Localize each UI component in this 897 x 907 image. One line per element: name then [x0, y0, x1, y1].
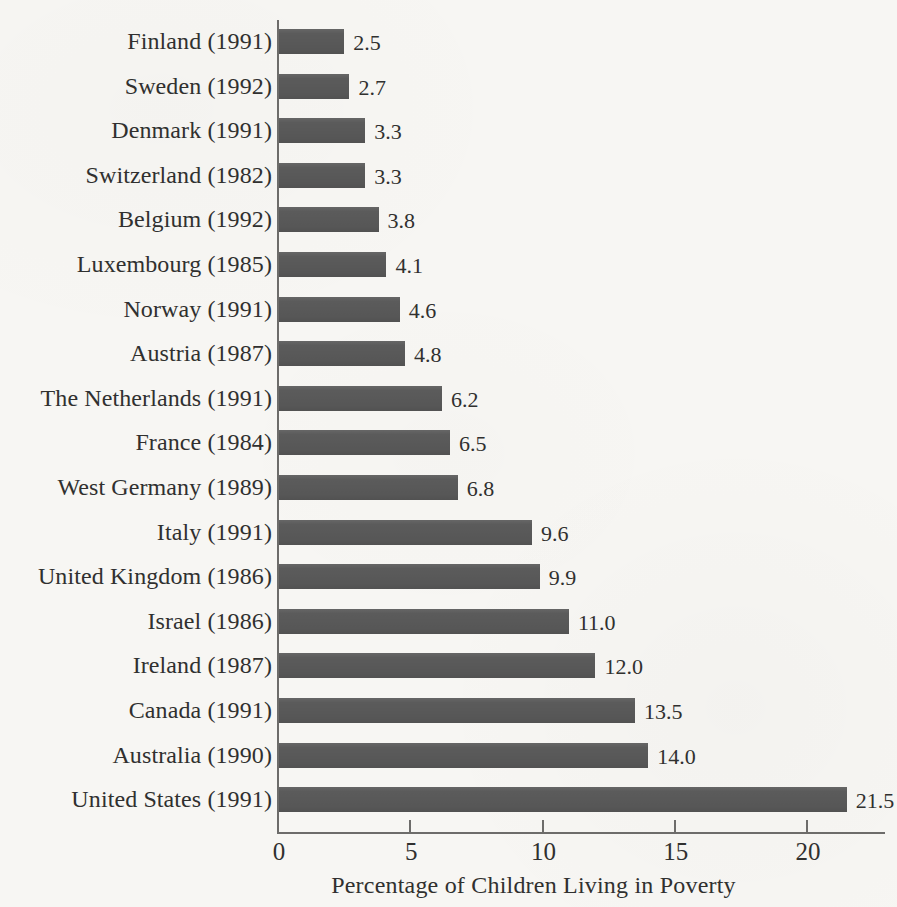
x-axis-title-text: Percentage of Children Living in Poverty	[161, 872, 736, 899]
bar	[278, 475, 458, 500]
bar	[278, 163, 365, 188]
bar-row: West Germany (1989)6.8	[0, 465, 897, 510]
category-label: Israel (1986)	[147, 599, 272, 644]
category-label: United States (1991)	[71, 777, 272, 822]
bar-value-label: 21.5	[856, 777, 895, 822]
bar-value-label: 9.6	[541, 510, 569, 555]
x-axis-tick	[277, 820, 279, 833]
bar	[278, 430, 450, 455]
bar-row: Ireland (1987)12.0	[0, 643, 897, 688]
bar-row: The Netherlands (1991)6.2	[0, 376, 897, 421]
bar-value-label: 6.2	[451, 376, 479, 421]
x-axis-tick-label: 15	[646, 838, 706, 866]
x-axis-tick	[674, 820, 676, 833]
y-axis-line	[277, 20, 279, 833]
category-label: Finland (1991)	[127, 19, 272, 64]
poverty-bar-chart: Finland (1991)2.5Sweden (1992)2.7Denmark…	[0, 0, 897, 907]
bar-value-label: 6.5	[459, 420, 487, 465]
bar	[278, 297, 400, 322]
bar-row: Austria (1987)4.8	[0, 331, 897, 376]
bar	[278, 29, 344, 54]
category-label: France (1984)	[135, 420, 272, 465]
bar-row: United States (1991)21.5	[0, 777, 897, 822]
category-label: Norway (1991)	[123, 287, 272, 332]
x-axis-tick-label: 0	[249, 838, 309, 866]
bar-row: Finland (1991)2.5	[0, 19, 897, 64]
bar	[278, 74, 349, 99]
x-axis-line	[277, 832, 885, 834]
bar	[278, 207, 379, 232]
bar-value-label: 4.1	[395, 242, 423, 287]
x-axis-tick	[409, 820, 411, 833]
bar-row: France (1984)6.5	[0, 420, 897, 465]
bar-value-label: 9.9	[549, 554, 577, 599]
bar-value-label: 2.5	[353, 19, 381, 64]
bar	[278, 564, 540, 589]
category-label: Switzerland (1982)	[86, 153, 272, 198]
x-axis-tick-label: 5	[381, 838, 441, 866]
bar-row: Switzerland (1982)3.3	[0, 153, 897, 198]
bar-row: United Kingdom (1986)9.9	[0, 554, 897, 599]
bar-value-label: 2.7	[358, 64, 386, 109]
x-axis-tick	[806, 820, 808, 833]
bar	[278, 698, 635, 723]
bar	[278, 252, 386, 277]
bar	[278, 520, 532, 545]
bar-row: Israel (1986)11.0	[0, 599, 897, 644]
category-label: Austria (1987)	[130, 331, 272, 376]
category-label: Canada (1991)	[129, 688, 272, 733]
bar-value-label: 13.5	[644, 688, 683, 733]
bar	[278, 787, 847, 812]
category-label: Belgium (1992)	[118, 197, 272, 242]
bar	[278, 386, 442, 411]
bar-value-label: 11.0	[578, 599, 616, 644]
bar-row: Australia (1990)14.0	[0, 733, 897, 778]
bar	[278, 609, 569, 634]
bar	[278, 653, 595, 678]
category-label: Sweden (1992)	[125, 64, 272, 109]
bar-value-label: 4.6	[409, 287, 437, 332]
bar-row: Belgium (1992)3.8	[0, 197, 897, 242]
x-axis-tick	[542, 820, 544, 833]
bar	[278, 743, 648, 768]
bar-value-label: 14.0	[657, 733, 696, 778]
category-label: Australia (1990)	[112, 733, 272, 778]
bar-row: Norway (1991)4.6	[0, 287, 897, 332]
bar	[278, 118, 365, 143]
bar-row: Denmark (1991)3.3	[0, 108, 897, 153]
bar-value-label: 6.8	[467, 465, 495, 510]
category-label: Denmark (1991)	[111, 108, 272, 153]
bar-row: Canada (1991)13.5	[0, 688, 897, 733]
x-axis-tick-label: 20	[778, 838, 838, 866]
category-label: United Kingdom (1986)	[38, 554, 272, 599]
bar-row: Sweden (1992)2.7	[0, 64, 897, 109]
category-label: West Germany (1989)	[57, 465, 272, 510]
bar-value-label: 12.0	[604, 643, 643, 688]
bar-row: Luxembourg (1985)4.1	[0, 242, 897, 287]
bar-row: Italy (1991)9.6	[0, 510, 897, 555]
category-label: Ireland (1987)	[133, 643, 272, 688]
category-label: Italy (1991)	[157, 510, 272, 555]
x-axis-tick-label: 10	[514, 838, 574, 866]
bar-value-label: 3.3	[374, 153, 402, 198]
x-axis-title: Percentage of Children Living in Poverty	[0, 872, 897, 899]
bar-value-label: 3.8	[388, 197, 416, 242]
category-label: The Netherlands (1991)	[41, 376, 272, 421]
bar-value-label: 4.8	[414, 331, 442, 376]
bar	[278, 341, 405, 366]
bar-value-label: 3.3	[374, 108, 402, 153]
category-label: Luxembourg (1985)	[77, 242, 272, 287]
